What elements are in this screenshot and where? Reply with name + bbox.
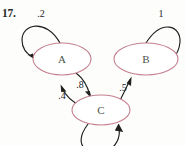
edge-c-to-c-arrowhead xyxy=(115,124,123,132)
diagram-page: 17. xyxy=(0,0,186,146)
edge-c-to-c-path xyxy=(81,124,119,146)
edge-label-a-to-a: .2 xyxy=(37,8,45,19)
edge-label-c-to-b: .5 xyxy=(119,82,127,93)
node-c[interactable]: C xyxy=(72,95,130,125)
state-diagram: A B C .2 1 .8 .4 .5 xyxy=(0,0,186,146)
edge-c-to-c xyxy=(81,124,123,146)
node-a[interactable]: A xyxy=(33,43,91,75)
node-b-label: B xyxy=(142,53,149,65)
edge-label-a-to-c: .8 xyxy=(76,79,84,90)
edge-label-b-to-b: 1 xyxy=(159,8,164,19)
node-a-label: A xyxy=(58,53,66,65)
edge-label-c-to-a: .4 xyxy=(58,90,66,101)
node-c-label: C xyxy=(97,104,104,116)
node-b[interactable]: B xyxy=(114,43,178,75)
